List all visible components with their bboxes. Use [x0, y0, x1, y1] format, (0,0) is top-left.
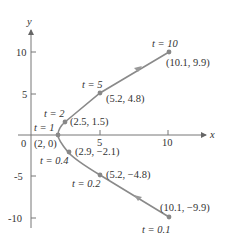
origin-label: 0 [21, 138, 26, 149]
t-label: t = 0.4 [40, 155, 69, 166]
x-tick-label: 10 [162, 137, 173, 148]
point-label: (5.2, −4.8) [106, 169, 151, 181]
t-label: t = 0.1 [142, 224, 170, 235]
y-tick-label: -10 [8, 213, 22, 224]
point-label: (2, 0) [34, 138, 57, 150]
t-label: t = 2 [44, 108, 65, 119]
t-label: t = 1 [34, 122, 55, 133]
y-tick-label: 5 [22, 89, 27, 100]
point-label: (2.9, −2.1) [75, 146, 120, 158]
y-tick-label: -5 [14, 171, 23, 182]
t-label: t = 5 [82, 79, 103, 90]
y-axis-label: y [26, 16, 32, 27]
point-label: (5.2, 4.8) [106, 93, 145, 105]
t-label: t = 0.2 [72, 178, 101, 189]
x-axis-label: x [209, 129, 215, 140]
t-label: t = 10 [152, 38, 179, 49]
point-label: (10.1, −9.9) [160, 202, 210, 214]
x-ticks [100, 130, 168, 135]
y-tick-label: 10 [16, 47, 27, 58]
point-label: (10.1, 9.9) [166, 57, 210, 69]
point-label: (2.5, 1.5) [70, 116, 109, 128]
parametric-plot: x y 10 5 -5 -10 5 10 0 t = 0.1 t = 0.2 t… [0, 0, 228, 236]
